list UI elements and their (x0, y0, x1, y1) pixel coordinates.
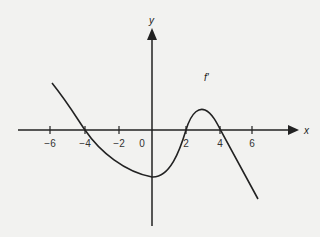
x-axis-arrow-icon (288, 125, 299, 135)
tick-label-neg2: −2 (113, 138, 125, 149)
y-axis-label: y (148, 15, 155, 26)
y-axis-arrow-icon (147, 28, 157, 40)
tick-label-0: 0 (139, 138, 145, 149)
tick-label-neg6: −6 (44, 138, 56, 149)
tick-label-neg4: −4 (79, 138, 91, 149)
x-axis-label: x (303, 125, 310, 136)
curve-label: f' (204, 72, 210, 83)
chart: −6 −4 −2 0 2 4 6 x y f' (0, 0, 320, 237)
tick-label-4: 4 (217, 138, 223, 149)
tick-label-6: 6 (249, 138, 255, 149)
tick-label-2: 2 (183, 138, 189, 149)
